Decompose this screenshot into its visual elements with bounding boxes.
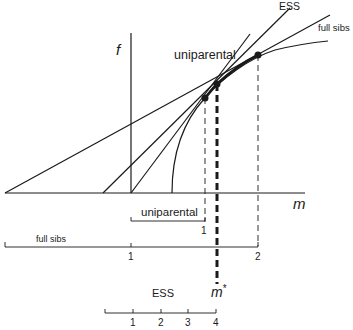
full-sibs-tangent (5, 15, 330, 193)
uniparental-scale-tick-1: 1 (201, 225, 207, 236)
ess-scale-tick-3: 3 (185, 317, 191, 328)
ess-scale (105, 309, 216, 313)
full-sibs-scale-tick-2: 2 (255, 251, 261, 262)
full-sibs-curve-label: full sibs (318, 22, 350, 33)
m-axis-label: m (293, 195, 306, 212)
uniparental-curve-label: uniparental (174, 48, 236, 62)
uniparental-point (202, 95, 209, 102)
ess-scale-tick-4: 4 (213, 317, 219, 328)
full-sibs-scale-label: full sibs (36, 234, 67, 244)
f-axis-label: f (116, 41, 122, 58)
full-sibs-scale-tick-1: 1 (128, 251, 134, 262)
ess-curve-label: ESS (279, 0, 300, 12)
marginal-value-diagram: f m uniparental ESS full sibs uniparenta… (0, 0, 353, 330)
ess-point (214, 81, 221, 88)
ess-scale-label: ESS (152, 287, 174, 299)
ess-scale-tick-2: 2 (158, 317, 164, 328)
fitness-curve (172, 41, 328, 193)
optimum-label: m* (211, 283, 227, 300)
uniparental-scale-label: uniparental (141, 206, 198, 218)
full-sibs-point (255, 52, 262, 59)
ess-scale-tick-1: 1 (130, 317, 136, 328)
